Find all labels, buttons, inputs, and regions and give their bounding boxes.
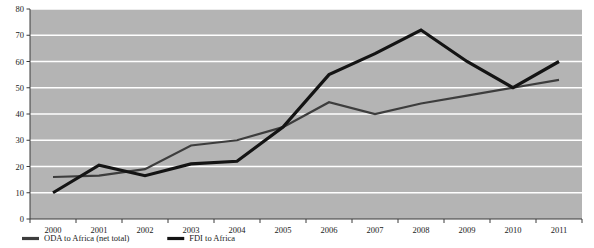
chart-canvas: 01020304050607080 2000200120022003200420…	[0, 0, 594, 248]
y-tick-label-0: 0	[20, 214, 24, 224]
x-tick-label-2008: 2008	[413, 225, 430, 235]
legend-label-oda: ODA to Africa (net total)	[44, 233, 130, 243]
line-chart-figure: 01020304050607080 2000200120022003200420…	[0, 0, 594, 248]
y-tick-label-80: 80	[16, 4, 25, 14]
y-tick-label-30: 30	[16, 135, 25, 145]
y-tick-label-20: 20	[16, 162, 25, 172]
legend-label-fdi: FDI to Africa	[189, 233, 235, 243]
x-axis	[30, 219, 582, 223]
x-tick-label-2006: 2006	[321, 225, 338, 235]
y-tick-labels: 01020304050607080	[16, 4, 25, 224]
y-tick-label-50: 50	[16, 83, 25, 93]
x-tick-label-2002: 2002	[137, 225, 154, 235]
x-tick-label-2007: 2007	[367, 225, 384, 235]
y-tick-label-10: 10	[16, 188, 25, 198]
y-tick-label-60: 60	[16, 57, 25, 67]
x-tick-label-2009: 2009	[459, 225, 476, 235]
y-tick-label-40: 40	[16, 109, 25, 119]
y-axis	[27, 9, 31, 219]
x-tick-label-2010: 2010	[505, 225, 522, 235]
chart-legend: ODA to Africa (net total)FDI to Africa	[22, 233, 235, 243]
x-tick-label-2011: 2011	[551, 225, 568, 235]
x-tick-label-2005: 2005	[275, 225, 292, 235]
y-tick-label-70: 70	[16, 30, 25, 40]
